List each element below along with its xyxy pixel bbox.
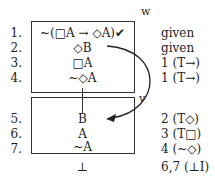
line-justification: 2 (T◇) [161,113,199,125]
line-justification: 6,7 (⊥I) [161,161,209,173]
contradiction-symbol: ⊥ [31,161,134,173]
line-formula: ~(□A → ◇A)✔ [31,27,134,39]
world-label-w: w [141,6,150,17]
line-number: 3. [6,57,22,69]
line-formula: □A [31,57,134,69]
line-justification: 1 (T→) [161,72,200,84]
line-number: 7. [6,143,22,155]
line-formula: ~◇A [31,72,134,84]
line-justification: 3 (T□) [161,128,201,140]
line-number: 1. [6,27,22,39]
line-formula: ~A [31,141,134,153]
line-number: 4. [6,72,22,84]
line-formula: ◇B [31,42,134,54]
line-number: 6. [6,128,22,140]
line-number: 2. [6,42,22,54]
line-number: 5. [6,113,22,125]
world-label-v: v [139,93,145,104]
line-formula: B [31,113,134,125]
line-formula: A [31,128,134,140]
line-justification: given [161,27,194,39]
line-justification: 1 (T→) [161,57,200,69]
line-justification: 4 (~◇) [161,143,201,155]
line-justification: given [161,42,194,54]
